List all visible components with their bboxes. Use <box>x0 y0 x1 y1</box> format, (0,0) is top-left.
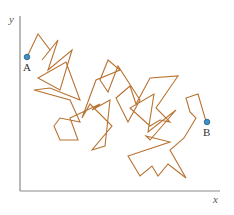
start-point-a <box>24 54 30 60</box>
random-walk-path <box>27 34 207 178</box>
y-axis-label: y <box>8 13 14 25</box>
end-point-b <box>204 119 210 125</box>
x-axis-label: x <box>212 193 218 205</box>
point-a-label: A <box>23 61 31 73</box>
point-b-label: B <box>203 126 210 138</box>
random-walk-diagram: y x A B <box>0 0 234 215</box>
